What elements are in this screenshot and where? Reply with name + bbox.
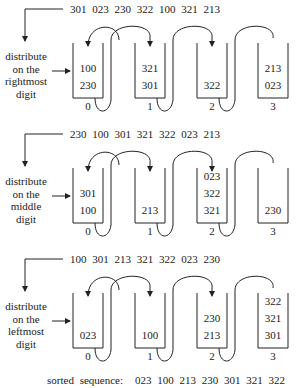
bucket-item: 100 [73,62,103,74]
sorted-sequence: 023 100 213 230 301 321 322 [135,374,285,386]
bucket-item: 301 [258,329,288,341]
bucket-item: 321 [258,312,288,324]
bucket-index: 3 [266,225,280,237]
bucket-index: 3 [266,350,280,362]
distribute-label: rightmost [0,75,54,88]
distribute-label: digit [0,213,54,226]
bucket-index: 0 [81,225,95,237]
bucket-index: 0 [81,350,95,362]
bucket-item: 301 [135,79,165,91]
bucket-item: 322 [197,187,227,199]
bucket-item: 023 [197,170,227,182]
distribute-label: distribute [0,50,54,63]
bucket-index: 1 [143,225,157,237]
bucket-index: 1 [143,350,157,362]
bucket-index: 2 [205,100,219,112]
bucket-item: 230 [258,204,288,216]
bucket-item: 100 [135,329,165,341]
bucket-item: 023 [258,79,288,91]
distribute-label: on the [0,188,54,201]
distribute-label: distribute [0,175,54,188]
bucket-item: 023 [73,329,103,341]
bucket-item: 322 [197,79,227,91]
sorted-sequence-label: sorted sequence: [47,374,123,386]
bucket-item: 321 [135,62,165,74]
bucket-item: 100 [73,204,103,216]
distribute-label: distribute [0,300,54,313]
bucket-item: 213 [197,329,227,341]
bucket-index: 2 [205,350,219,362]
distribute-label: on the [0,313,54,326]
distribute-label: digit [0,338,54,351]
bucket-item: 321 [197,204,227,216]
input-sequence: 301 023 230 322 100 321 213 [70,3,220,15]
radix-sort-diagram: 301 023 230 322 100 321 213distributeon … [0,0,302,388]
bucket-index: 3 [266,100,280,112]
input-sequence: 100 301 213 321 322 023 230 [70,253,220,265]
bucket-item: 230 [197,312,227,324]
bucket-index: 2 [205,225,219,237]
distribute-label: leftmost [0,325,54,338]
distribute-label: digit [0,88,54,101]
bucket-item: 322 [258,295,288,307]
distribute-label: on the [0,63,54,76]
distribute-label: middle [0,200,54,213]
bucket-item: 213 [258,62,288,74]
input-sequence: 230 100 301 321 322 023 213 [70,128,220,140]
bucket-item: 230 [73,79,103,91]
bucket-item: 301 [73,187,103,199]
bucket-index: 1 [143,100,157,112]
bucket-item: 213 [135,204,165,216]
bucket-index: 0 [81,100,95,112]
